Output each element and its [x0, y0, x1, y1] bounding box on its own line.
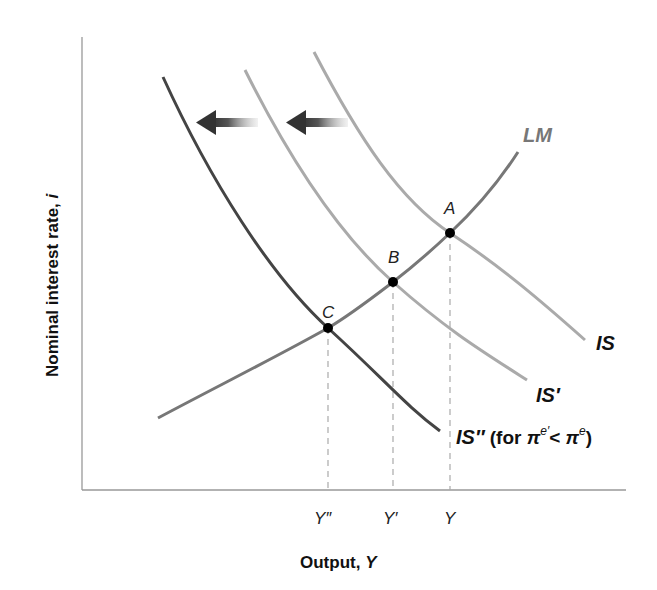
is-label: IS — [596, 332, 616, 354]
shift-arrow-left-2 — [286, 110, 348, 135]
point-a-marker — [445, 228, 455, 238]
shift-arrow-left-1 — [196, 110, 258, 135]
less-than: < — [549, 427, 565, 448]
tick-y: Y — [444, 509, 457, 528]
x-axis-title-text: Output, — [300, 553, 365, 572]
is-prime-label: IS′ — [536, 384, 561, 406]
point-c-label: C — [322, 303, 335, 322]
tick-y-prime: Y′ — [383, 509, 398, 528]
note-open: (for — [484, 427, 526, 448]
is-double-prime-name: IS″ — [456, 426, 486, 448]
tick-y-double-prime: Y″ — [314, 509, 332, 528]
y-axis-title: Nominal interest rate, i — [43, 192, 62, 377]
is-prime-curve — [245, 70, 527, 380]
lm-label: LM — [523, 124, 553, 146]
point-c-marker — [323, 323, 333, 333]
y-axis-title-var: i — [43, 192, 62, 198]
note-close: ) — [586, 427, 592, 448]
is-lm-chart: A B C LM IS IS′ IS″ (for πe′< πe) Y″ Y′ … — [0, 0, 657, 590]
lm-curve — [158, 152, 518, 418]
pi-symbol: π — [527, 427, 541, 448]
point-b-label: B — [388, 248, 399, 267]
x-axis-title-var: Y — [365, 553, 378, 572]
point-b-marker — [388, 277, 398, 287]
point-a-label: A — [443, 199, 455, 218]
is-curve — [314, 52, 585, 340]
y-axis-title-text: Nominal interest rate, — [43, 198, 62, 377]
is-double-prime-label: IS″ (for πe′< πe) — [456, 424, 592, 448]
x-axis-title: Output, Y — [300, 553, 378, 572]
pi-symbol-2: π — [566, 427, 580, 448]
